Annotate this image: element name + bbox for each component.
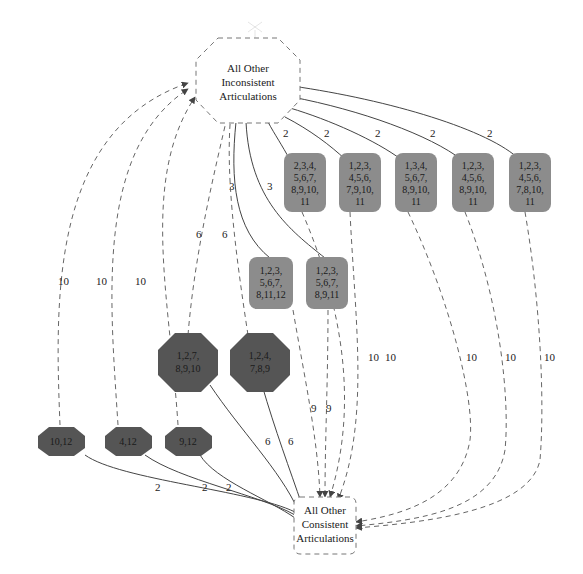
edges-top-to-row1 — [268, 86, 520, 160]
edge-label: 2 — [226, 481, 232, 493]
svg-text:1,2,7,: 1,2,7, — [177, 350, 200, 361]
node-inconsistent-articulations[interactable]: All Other Inconsistent Articulations — [196, 38, 300, 123]
node-dark-large-1[interactable]: 1,2,4, 7,8,9 — [230, 333, 290, 392]
svg-text:All Other: All Other — [304, 504, 346, 516]
edge-label: 10 — [505, 351, 517, 363]
svg-text:7,8,9: 7,8,9 — [250, 363, 270, 374]
svg-text:8,9,10,: 8,9,10, — [402, 184, 430, 195]
svg-text:Articulations: Articulations — [219, 90, 276, 102]
svg-text:8,9,10,: 8,9,10, — [291, 184, 319, 195]
svg-text:9,12: 9,12 — [179, 436, 197, 447]
edge-label: 9 — [326, 402, 332, 414]
svg-text:Articulations: Articulations — [296, 532, 353, 544]
edge-label: 6 — [222, 228, 228, 240]
edge-label: 10 — [385, 351, 397, 363]
node-gray-row1-4[interactable]: 1,2,3, 4,5,6, 7,8,10, 11 — [509, 153, 551, 212]
node-gray-row1-3[interactable]: 1,2,3, 4,5,6, 8,9,10, 11 — [452, 153, 494, 212]
svg-text:10,12: 10,12 — [50, 436, 73, 447]
edge-label: 3 — [267, 180, 273, 192]
svg-text:2,3,4,: 2,3,4, — [294, 160, 317, 171]
edge-label: 6 — [196, 228, 202, 240]
svg-text:11: 11 — [411, 196, 421, 207]
svg-text:8,9,11: 8,9,11 — [315, 289, 340, 300]
edge-label: 9 — [311, 402, 317, 414]
svg-text:All Other: All Other — [227, 62, 269, 74]
edge-label: 2 — [155, 481, 161, 493]
svg-text:Consistent: Consistent — [302, 518, 348, 530]
svg-text:4,5,6,: 4,5,6, — [462, 172, 485, 183]
svg-text:1,2,3,: 1,2,3, — [349, 160, 372, 171]
svg-text:4,5,6,: 4,5,6, — [519, 172, 542, 183]
node-gray-row1-0[interactable]: 2,3,4, 5,6,7, 8,9,10, 11 — [284, 153, 326, 212]
svg-text:8,9,10: 8,9,10 — [176, 363, 201, 374]
svg-text:1,2,4,: 1,2,4, — [249, 350, 272, 361]
node-dark-small-0[interactable]: 10,12 — [38, 427, 85, 456]
svg-text:11: 11 — [300, 196, 310, 207]
edge-label: 10 — [96, 275, 108, 287]
edge-label: 10 — [58, 275, 70, 287]
node-gray-row2-0[interactable]: 1,2,3, 5,6,7, 8,11,12 — [249, 257, 293, 309]
edges-dark-to-top — [58, 83, 248, 425]
node-consistent-articulations[interactable]: All Other Consistent Articulations — [294, 497, 356, 554]
node-dark-small-2[interactable]: 9,12 — [165, 427, 212, 456]
svg-text:7,9,10,: 7,9,10, — [346, 184, 374, 195]
edge-labels-dark-to-top: 10 10 10 6 6 — [58, 228, 228, 287]
node-dark-large-0[interactable]: 1,2,7, 8,9,10 — [158, 333, 218, 392]
node-gray-row2-1[interactable]: 1,2,3, 5,6,7, 8,9,11 — [306, 257, 348, 309]
svg-text:5,6,7,: 5,6,7, — [294, 172, 317, 183]
edge-labels-row1-to-bottom: 10 10 10 10 10 — [368, 351, 556, 363]
edge-label: 2 — [487, 127, 493, 139]
svg-text:5,6,7,: 5,6,7, — [260, 277, 283, 288]
edge-label: 2 — [202, 481, 208, 493]
articulation-graph: 2 2 2 2 2 3 3 10 10 10 6 6 10 10 10 10 — [0, 0, 583, 574]
edge-label: 10 — [544, 351, 556, 363]
edge-label: 6 — [265, 435, 271, 447]
svg-text:1,2,3,: 1,2,3, — [260, 265, 283, 276]
svg-text:5,6,7,: 5,6,7, — [316, 277, 339, 288]
svg-text:4,5,6,: 4,5,6, — [349, 172, 372, 183]
edge-label: 2 — [375, 127, 381, 139]
svg-text:4,12: 4,12 — [119, 436, 137, 447]
svg-text:8,11,12: 8,11,12 — [256, 289, 286, 300]
edge-label: 10 — [135, 275, 147, 287]
svg-text:1,2,3,: 1,2,3, — [462, 160, 485, 171]
svg-text:8,9,10,: 8,9,10, — [459, 184, 487, 195]
node-gray-row1-2[interactable]: 1,3,4, 5,6,7, 8,9,10, 11 — [395, 153, 437, 212]
edge-label: 2 — [430, 127, 436, 139]
svg-text:1,3,4,: 1,3,4, — [405, 160, 428, 171]
svg-text:11: 11 — [355, 196, 365, 207]
edge-label: 10 — [368, 351, 380, 363]
svg-text:1,2,3,: 1,2,3, — [316, 265, 339, 276]
node-dark-small-1[interactable]: 4,12 — [105, 427, 152, 456]
edge-label: 6 — [288, 435, 294, 447]
svg-text:11: 11 — [468, 196, 478, 207]
svg-text:1,2,3,: 1,2,3, — [519, 160, 542, 171]
edge-labels-top-to-row1: 2 2 2 2 2 — [283, 127, 493, 139]
edge-label: 2 — [283, 127, 289, 139]
edge-label: 2 — [324, 127, 330, 139]
svg-text:11: 11 — [525, 196, 535, 207]
background-artifact — [248, 22, 262, 40]
edge-label: 10 — [466, 351, 478, 363]
node-gray-row1-1[interactable]: 1,2,3, 4,5,6, 7,9,10, 11 — [339, 153, 381, 212]
svg-text:7,8,10,: 7,8,10, — [516, 184, 544, 195]
svg-text:Inconsistent: Inconsistent — [221, 76, 274, 88]
svg-text:5,6,7,: 5,6,7, — [405, 172, 428, 183]
